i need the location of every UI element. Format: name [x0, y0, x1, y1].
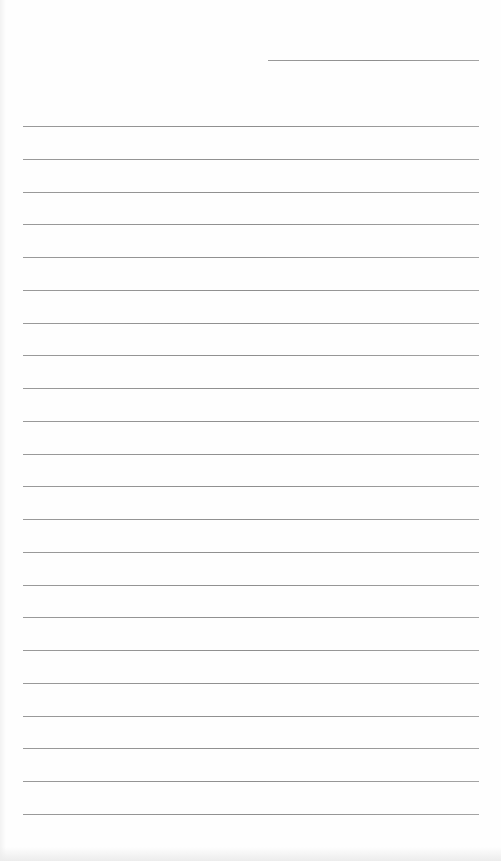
ruled-line [23, 126, 479, 127]
page-bottom-shadow [0, 847, 501, 861]
ruled-line [23, 650, 479, 651]
ruled-line [23, 519, 479, 520]
ruled-line [23, 355, 479, 356]
ruled-line [23, 224, 479, 225]
ruled-line [23, 617, 479, 618]
ruled-line [23, 323, 479, 324]
ruled-line [23, 683, 479, 684]
ruled-line [23, 159, 479, 160]
ruled-line [23, 716, 479, 717]
ruled-line [23, 814, 479, 815]
ruled-line [23, 388, 479, 389]
lined-paper-page [0, 0, 501, 861]
ruled-line [23, 552, 479, 553]
ruled-line [23, 748, 479, 749]
header-name-line [268, 60, 479, 61]
ruled-line [23, 781, 479, 782]
ruled-line [23, 421, 479, 422]
ruled-line [23, 192, 479, 193]
page-edge-shadow [0, 0, 6, 861]
ruled-line [23, 585, 479, 586]
ruled-line [23, 290, 479, 291]
ruled-line [23, 454, 479, 455]
ruled-line [23, 257, 479, 258]
ruled-line [23, 486, 479, 487]
